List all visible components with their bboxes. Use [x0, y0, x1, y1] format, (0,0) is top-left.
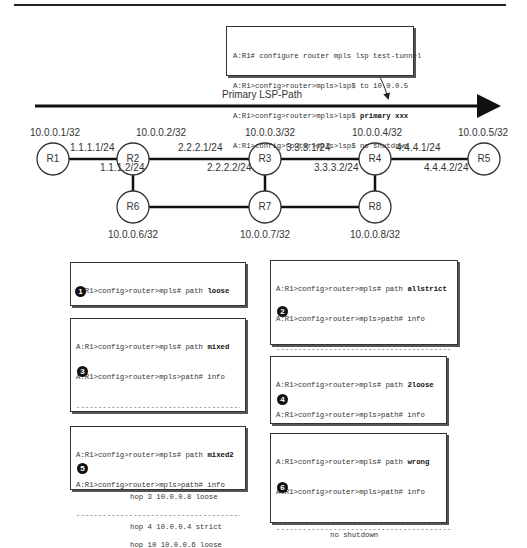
loopback-label: 10.0.0.5/32: [458, 127, 508, 138]
loopback-label: 10.0.0.3/32: [245, 127, 295, 138]
number-badge-5: 5: [77, 463, 88, 474]
router-name: R7: [245, 189, 285, 225]
number-badge-3: 3: [77, 366, 88, 377]
path-box-allstrict: A:R1>config>router>mpls# path allstrict …: [270, 260, 458, 345]
interface-label: 1.1.1.2/24: [100, 162, 144, 173]
terminal-line: A:R1>config>router>mpls>lsp$ primary xxx: [233, 111, 407, 121]
number-badge-6: 6: [277, 482, 288, 493]
separator: ----------------------------------------…: [76, 510, 240, 520]
path-command: A:R1>config>router>mpls# path mixed2: [76, 450, 240, 460]
terminal-line: A:R1# configure router mpls lsp test-tun…: [233, 51, 407, 61]
lsp-path-label: Primary LSP-Path: [222, 89, 302, 100]
interface-label: 2.2.2.2/24: [207, 162, 251, 173]
loopback-label: 10.0.0.4/32: [352, 127, 402, 138]
interface-label: 4.4.4.1/24: [396, 142, 440, 153]
path-command: A:R1>config>router>mpls# path allstrict: [276, 284, 452, 294]
number-badge-4: 4: [277, 394, 288, 405]
path-box-loose: A:R1>config>router>mpls# path loose A:R1…: [70, 262, 246, 306]
info-command: A:R1>config>router>mpls>path# info: [276, 314, 452, 324]
loopback-label: 10.0.0.8/32: [350, 229, 400, 240]
info-command: A:R1>config>router>mpls>path# info: [76, 372, 240, 382]
loopback-label: 10.0.0.7/32: [240, 229, 290, 240]
loopback-label: 10.0.0.2/32: [136, 127, 186, 138]
router-name: R6: [113, 189, 153, 225]
path-box-mixed: A:R1>config>router>mpls# path mixed A:R1…: [70, 318, 246, 412]
loopback-label: 10.0.0.6/32: [108, 229, 158, 240]
interface-label: 3.3.3.1/24: [286, 142, 330, 153]
info-command: A:R1>config>router>mpls>path# info: [76, 480, 240, 490]
path-box-2loose: A:R1>config>router>mpls# path 2loose A:R…: [270, 356, 447, 424]
info-command: A:R1>config>router>mpls>path# info: [276, 487, 441, 497]
info-command: A:R1>config>router>mpls>path# info: [276, 410, 441, 420]
path-command: A:R1>config>router>mpls# path wrong: [276, 457, 441, 467]
separator: ----------------------------------------…: [76, 402, 240, 412]
interface-label: 2.2.2.1/24: [178, 142, 222, 153]
lsp-config-terminal: A:R1# configure router mpls lsp test-tun…: [226, 26, 414, 76]
loopback-label: 10.0.0.1/32: [30, 127, 80, 138]
separator: ----------------------------------------…: [276, 344, 452, 354]
interface-label: 1.1.1.1/24: [70, 142, 114, 153]
path-command: A:R1>config>router>mpls# path 2loose: [276, 380, 441, 390]
number-badge-2: 2: [277, 306, 288, 317]
separator: ----------------------------------------…: [276, 517, 441, 527]
router-name: R5: [464, 141, 504, 177]
path-command: A:R1>config>router>mpls# path mixed: [76, 342, 240, 352]
path-box-wrong: A:R1>config>router>mpls# path wrong A:R1…: [270, 433, 447, 523]
router-name: R8: [355, 189, 395, 225]
path-command: A:R1>config>router>mpls# path loose: [76, 286, 240, 296]
hop-line: hop 10 10.0.0.6 loose: [76, 540, 240, 548]
router-name: R4: [355, 141, 395, 177]
path-box-mixed2: A:R1>config>router>mpls# path mixed2 A:R…: [70, 426, 246, 490]
number-badge-1: 1: [75, 286, 86, 297]
router-name: R1: [33, 141, 73, 177]
interface-label: 4.4.4.2/24: [424, 162, 468, 173]
interface-label: 3.3.3.2/24: [314, 162, 358, 173]
